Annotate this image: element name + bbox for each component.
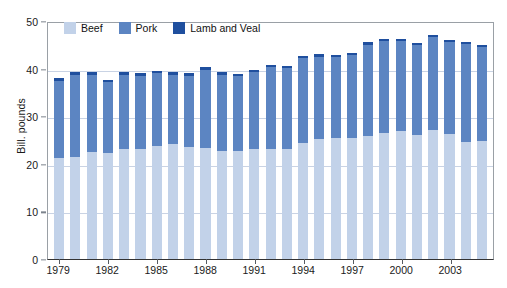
bar-1998[interactable] — [363, 42, 373, 259]
bar-segment-pork — [152, 73, 162, 146]
bar-segment-beef — [200, 148, 210, 259]
bar-segment-pork — [135, 76, 145, 148]
bar-slot — [441, 23, 457, 259]
bar-segment-beef — [168, 144, 178, 259]
legend-label-pork: Pork — [136, 22, 158, 34]
bar-segment-pork — [70, 75, 80, 157]
bar-1986[interactable] — [168, 72, 178, 259]
legend-label-beef: Beef — [81, 22, 103, 34]
bar-segment-pork — [444, 42, 454, 134]
bar-1982[interactable] — [103, 80, 113, 259]
bar-segment-beef — [282, 149, 292, 259]
bar-slot — [197, 23, 213, 259]
bar-slot — [165, 23, 181, 259]
chart-legend: Beef Pork Lamb and Veal — [64, 22, 260, 34]
y-axis-tickmark — [41, 21, 46, 22]
bar-segment-pork — [54, 81, 64, 157]
bar-1979[interactable] — [54, 78, 64, 259]
bar-1981[interactable] — [87, 72, 97, 259]
bar-segment-beef — [477, 141, 487, 259]
bar-segment-pork — [412, 45, 422, 134]
bar-segment-beef — [135, 149, 145, 259]
y-axis-tickmark — [41, 212, 46, 213]
bar-1980[interactable] — [70, 72, 80, 259]
bar-2004[interactable] — [461, 42, 471, 259]
x-axis-tick-label: 1997 — [340, 264, 363, 276]
bar-segment-beef — [428, 130, 438, 259]
bar-1984[interactable] — [135, 73, 145, 259]
bar-segment-beef — [87, 152, 97, 259]
bar-slot — [214, 23, 230, 259]
bar-2003[interactable] — [444, 40, 454, 259]
y-axis-tick-label: 0 — [8, 254, 38, 266]
bar-slot — [181, 23, 197, 259]
bar-segment-beef — [70, 157, 80, 259]
bar-segment-pork — [249, 72, 259, 149]
bar-slot — [246, 23, 262, 259]
bar-1994[interactable] — [298, 56, 308, 259]
x-axis-tick-label: 1994 — [291, 264, 314, 276]
bar-segment-beef — [461, 142, 471, 259]
bar-segment-pork — [477, 47, 487, 141]
bar-1997[interactable] — [347, 53, 357, 259]
bar-1999[interactable] — [379, 39, 389, 259]
bar-segment-pork — [119, 75, 129, 149]
bar-1983[interactable] — [119, 72, 129, 259]
bar-segment-pork — [217, 75, 227, 152]
x-axis-tick-label: 1985 — [144, 264, 167, 276]
bar-1992[interactable] — [266, 65, 276, 259]
bar-segment-beef — [298, 143, 308, 259]
bar-1995[interactable] — [314, 54, 324, 259]
bar-1989[interactable] — [217, 72, 227, 259]
bar-2000[interactable] — [396, 39, 406, 259]
plot-area — [47, 22, 494, 260]
bar-segment-beef — [396, 131, 406, 259]
bar-1987[interactable] — [184, 73, 194, 259]
bar-2001[interactable] — [412, 43, 422, 259]
bar-segment-pork — [331, 57, 341, 137]
bar-1988[interactable] — [200, 67, 210, 259]
y-axis-tickmark — [41, 117, 46, 118]
bar-segment-pork — [282, 68, 292, 149]
legend-swatch-pork — [119, 22, 131, 34]
bar-segment-beef — [233, 151, 243, 259]
bar-series-group — [48, 23, 493, 259]
legend-item-pork[interactable]: Pork — [119, 22, 158, 34]
chart-container: Bill. pounds 01020304050 197919821985198… — [0, 0, 507, 288]
bar-slot — [360, 23, 376, 259]
legend-swatch-beef — [64, 22, 76, 34]
bar-slot — [51, 23, 67, 259]
bar-2005[interactable] — [477, 45, 487, 259]
bar-segment-beef — [184, 147, 194, 259]
bar-1993[interactable] — [282, 66, 292, 259]
legend-swatch-lamb-and-veal — [173, 22, 185, 34]
bar-2002[interactable] — [428, 35, 438, 259]
bar-segment-beef — [379, 133, 389, 259]
bar-segment-pork — [233, 76, 243, 151]
bar-slot — [149, 23, 165, 259]
y-axis-tick-label: 10 — [8, 206, 38, 218]
x-axis-tick-label: 1988 — [193, 264, 216, 276]
bar-segment-beef — [363, 136, 373, 259]
legend-item-lamb-and-veal[interactable]: Lamb and Veal — [173, 22, 260, 34]
bar-segment-pork — [379, 41, 389, 133]
bar-slot — [262, 23, 278, 259]
legend-item-beef[interactable]: Beef — [64, 22, 103, 34]
bar-slot — [393, 23, 409, 259]
bar-1991[interactable] — [249, 70, 259, 259]
bar-segment-pork — [200, 70, 210, 148]
bar-1990[interactable] — [233, 74, 243, 259]
bar-slot — [67, 23, 83, 259]
y-axis-tickmark — [41, 259, 46, 260]
bar-segment-pork — [184, 76, 194, 147]
bar-segment-pork — [266, 67, 276, 149]
bar-segment-beef — [119, 149, 129, 259]
bar-segment-pork — [103, 82, 113, 152]
bar-segment-beef — [103, 153, 113, 259]
x-axis-tick-label: 1979 — [46, 264, 69, 276]
bar-slot — [132, 23, 148, 259]
bar-1996[interactable] — [331, 55, 341, 259]
bar-slot — [230, 23, 246, 259]
bar-segment-beef — [152, 146, 162, 259]
bar-1985[interactable] — [152, 71, 162, 259]
